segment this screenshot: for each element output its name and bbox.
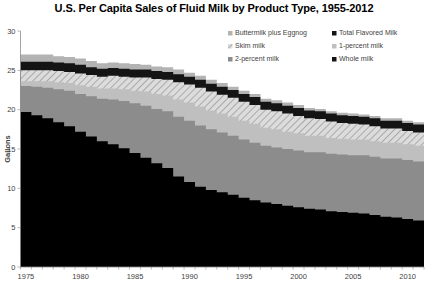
area-series-group — [21, 55, 425, 267]
y-tick-label: 25 — [7, 66, 15, 75]
stacked-area-chart: 0510152025301975198019851990199520002005… — [0, 0, 428, 290]
legend-swatch — [332, 57, 337, 62]
legend-label: Whole milk — [339, 55, 374, 62]
y-tick-label: 20 — [7, 105, 15, 114]
legend-label: 1-percent milk — [339, 42, 383, 50]
legend-swatch — [228, 57, 233, 62]
x-tick-label: 1995 — [236, 272, 253, 281]
y-tick-label: 30 — [7, 27, 15, 36]
legend-label: Total Flavored Milk — [339, 29, 398, 36]
x-tick-label: 2005 — [345, 272, 362, 281]
y-tick-label: 10 — [7, 184, 15, 193]
x-tick-label: 2010 — [399, 272, 416, 281]
legend-label: Skim milk — [235, 42, 265, 49]
legend-label: Buttermilk plus Eggnog — [235, 29, 307, 37]
x-tick-label: 2000 — [290, 272, 307, 281]
x-tick-label: 1985 — [127, 272, 144, 281]
legend-label: 2-percent milk — [235, 55, 279, 63]
legend-swatch — [332, 44, 337, 49]
x-tick-label: 1980 — [72, 272, 89, 281]
x-tick-label: 1975 — [18, 272, 35, 281]
legend-swatch — [332, 31, 337, 36]
y-tick-label: 0 — [11, 263, 15, 272]
chart-container: 0510152025301975198019851990199520002005… — [0, 0, 428, 290]
y-axis-title: Gallons — [3, 135, 12, 163]
x-tick-label: 1990 — [181, 272, 198, 281]
y-tick-label: 5 — [11, 223, 15, 232]
chart-legend: Buttermilk plus EggnogTotal Flavored Mil… — [228, 29, 398, 63]
legend-swatch — [228, 44, 233, 49]
legend-swatch — [228, 31, 233, 36]
